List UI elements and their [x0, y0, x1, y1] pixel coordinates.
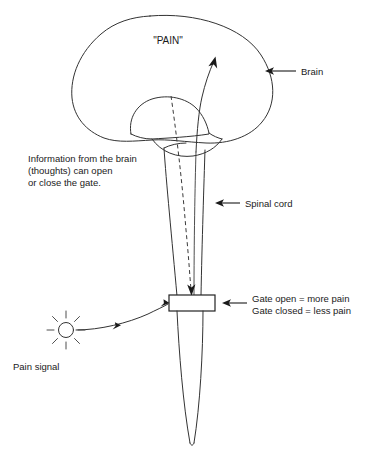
pain-signal-ray-se: [75, 339, 80, 344]
spinal-cord-left-edge: [164, 148, 177, 296]
thoughts-text-line-1: Information from the brain: [28, 153, 137, 164]
spinal-cord-lower-right-edge: [194, 311, 203, 443]
pain-signal-ray-sw: [53, 339, 58, 344]
gate-open-label: Gate open = more pain: [252, 293, 349, 304]
afferent-pathway-arrowhead-mid: [113, 322, 121, 329]
thoughts-text-line-3: or close the gate.: [28, 177, 101, 188]
spinal-cord-top-join: [164, 143, 186, 148]
gate-closed-label: Gate closed = less pain: [252, 305, 351, 316]
spinal-cord-inner-line: [194, 152, 196, 296]
thoughts-text-line-2: (thoughts) can open: [28, 165, 113, 176]
pain-in-brain-label: "PAIN": [153, 35, 183, 46]
brain-label: Brain: [301, 66, 323, 77]
spinal-cord-lower-tip: [190, 443, 194, 445]
pain-signal-label: Pain signal: [13, 361, 59, 372]
pain-signal-circle: [59, 323, 74, 338]
gate-control-diagram: Brain Spinal cord Gate open = more pain …: [0, 0, 366, 465]
afferent-pathway-line: [76, 304, 168, 330]
spinal-cord-label: Spinal cord: [245, 198, 293, 209]
diagram-canvas: Brain Spinal cord Gate open = more pain …: [0, 0, 366, 465]
spinal-cord-right-edge: [201, 150, 205, 296]
pain-signal-ray-nw: [53, 317, 58, 322]
pain-signal-ray-ne: [75, 317, 80, 322]
gate-rectangle[interactable]: [169, 295, 215, 311]
spinal-cord-lower-left-edge: [177, 311, 190, 443]
